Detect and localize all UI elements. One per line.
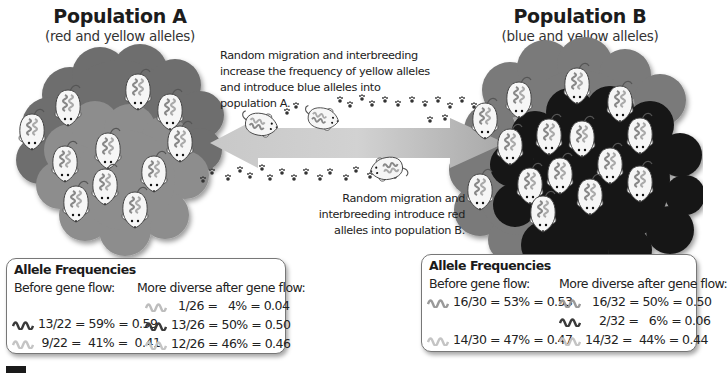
after-list: 16/32 = 50% = 0.50 2/32 = 6% = 0.06 14/3…	[559, 292, 711, 349]
red-allele-dna-icon	[145, 319, 167, 331]
paw-prints-bottom	[200, 164, 398, 183]
allele-frequencies-a-panel: Allele Frequencies Before gene flow: Mor…	[6, 258, 286, 354]
allele-frequencies-b-panel: Allele Frequencies Before gene flow: Mor…	[421, 254, 697, 352]
red-allele-dna-icon	[559, 315, 581, 327]
before-label: Before gene flow:	[429, 276, 530, 291]
allele-row-yellow: 9/22 = 41% = 0.41	[12, 333, 160, 352]
blue-allele-dna-icon	[145, 300, 167, 312]
allele-row-blue: 16/32 = 50% = 0.50	[559, 292, 711, 311]
allele-row-blue: 16/30 = 53% = 0.53	[427, 292, 572, 311]
panel-title: Allele Frequencies	[429, 258, 551, 273]
blue-allele-dna-icon	[559, 296, 581, 308]
figure-marker	[6, 366, 26, 373]
allele-row-yellow: 14/30 = 47% = 0.47	[427, 330, 572, 349]
after-label: More diverse after gene flow:	[559, 276, 727, 291]
red-allele-dna-icon	[12, 318, 34, 330]
before-label: Before gene flow:	[14, 280, 115, 295]
before-list: 13/22 = 59% = 0.59 9/22 = 41% = 0.41	[12, 314, 160, 352]
yellow-allele-dna-icon	[145, 338, 167, 350]
allele-row-yellow: 12/26 = 46% = 0.46	[145, 334, 290, 353]
yellow-allele-dna-icon	[559, 334, 581, 346]
panel-title: Allele Frequencies	[14, 262, 136, 277]
allele-row-blue: 1/26 = 4% = 0.04	[145, 296, 290, 315]
caption-migration-to-b: Random migration and interbreeding intro…	[300, 191, 465, 239]
after-list: 1/26 = 4% = 0.04 13/26 = 50% = 0.50 12/2…	[145, 296, 290, 353]
allele-row-red: 2/32 = 6% = 0.06	[559, 311, 711, 330]
before-list: 16/30 = 53% = 0.53 . 14/30 = 47% = 0.47	[427, 292, 572, 349]
allele-row-red: 13/26 = 50% = 0.50	[145, 315, 290, 334]
after-label: More diverse after gene flow:	[137, 280, 305, 295]
yellow-allele-dna-icon	[12, 337, 34, 349]
caption-migration-to-a: Random migration and interbreeding incre…	[220, 48, 440, 112]
yellow-allele-dna-icon	[427, 334, 449, 346]
allele-row-red: 13/22 = 59% = 0.59	[12, 314, 160, 333]
allele-row-yellow: 14/32 = 44% = 0.44	[559, 330, 711, 349]
blue-allele-dna-icon	[427, 296, 449, 308]
